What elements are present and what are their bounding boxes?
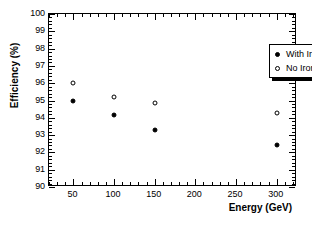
x-tick-major-top: [195, 14, 196, 20]
y-tick-minor: [49, 107, 52, 108]
y-tick-minor-right: [292, 173, 295, 174]
y-tick-major: [49, 83, 55, 84]
y-tick-label: 100: [30, 8, 45, 18]
y-tick-major-right: [289, 152, 295, 153]
y-tick-label: 90: [35, 181, 45, 191]
y-tick-major: [49, 135, 55, 136]
x-tick-label: 300: [268, 189, 283, 199]
y-axis-tick-labels: 90919293949596979899100: [20, 13, 45, 186]
legend-label-with-iron: With Iron: [286, 50, 312, 59]
y-tick-minor: [49, 97, 52, 98]
x-tick-minor-top: [138, 14, 139, 17]
x-tick-minor: [244, 182, 245, 185]
plot-frame: With Iron No Iron: [48, 13, 296, 186]
x-tick-major-top: [114, 14, 115, 20]
y-tick-major-right: [289, 83, 295, 84]
y-tick-minor: [49, 42, 52, 43]
y-tick-label: 95: [35, 95, 45, 105]
y-tick-minor-right: [292, 163, 295, 164]
x-tick-minor-top: [65, 14, 66, 17]
x-tick-minor-top: [179, 14, 180, 17]
y-tick-minor: [49, 166, 52, 167]
x-tick-minor: [187, 182, 188, 185]
y-tick-minor-right: [292, 24, 295, 25]
x-axis-title: Energy (GeV): [48, 202, 296, 213]
y-tick-minor-right: [292, 104, 295, 105]
x-tick-minor-top: [98, 14, 99, 17]
x-tick-major: [73, 179, 74, 185]
x-tick-label: 200: [187, 189, 202, 199]
x-tick-major-top: [155, 14, 156, 20]
y-tick-minor: [49, 69, 52, 70]
x-tick-minor-top: [293, 14, 294, 17]
y-tick-minor-right: [292, 142, 295, 143]
y-tick-minor-right: [292, 87, 295, 88]
y-tick-minor-right: [292, 177, 295, 178]
open-circle-icon: [275, 66, 280, 71]
y-tick-minor: [49, 125, 52, 126]
data-point-no-iron: [71, 81, 76, 86]
y-tick-minor: [49, 111, 52, 112]
y-tick-minor: [49, 114, 52, 115]
x-tick-minor-top: [106, 14, 107, 17]
y-tick-major-right: [289, 101, 295, 102]
y-tick-minor: [49, 173, 52, 174]
x-tick-major-top: [277, 14, 278, 20]
y-tick-major: [49, 31, 55, 32]
y-tick-minor: [49, 104, 52, 105]
y-tick-minor: [49, 87, 52, 88]
y-tick-minor: [49, 24, 52, 25]
x-tick-minor-top: [163, 14, 164, 17]
y-tick-minor-right: [292, 159, 295, 160]
x-tick-minor-top: [228, 14, 229, 17]
data-point-with-iron: [71, 98, 76, 103]
x-tick-label: 50: [67, 189, 77, 199]
x-tick-major: [236, 179, 237, 185]
legend-entry-with-iron: With Iron: [270, 47, 312, 61]
y-tick-minor-right: [292, 97, 295, 98]
x-tick-minor-top: [147, 14, 148, 17]
x-tick-minor: [203, 182, 204, 185]
x-tick-minor: [49, 182, 50, 185]
data-point-with-iron: [112, 113, 117, 118]
y-axis-title: Efficiency (%): [9, 26, 20, 126]
y-tick-minor: [49, 142, 52, 143]
x-tick-minor: [212, 182, 213, 185]
x-tick-minor: [106, 182, 107, 185]
y-tick-minor-right: [292, 180, 295, 181]
x-tick-minor-top: [90, 14, 91, 17]
y-tick-minor-right: [292, 125, 295, 126]
y-tick-major: [49, 170, 55, 171]
x-tick-major: [155, 179, 156, 185]
x-tick-minor-top: [171, 14, 172, 17]
legend-label-no-iron: No Iron: [286, 64, 312, 73]
y-tick-minor-right: [292, 111, 295, 112]
y-tick-minor: [49, 59, 52, 60]
y-tick-minor-right: [292, 145, 295, 146]
y-tick-major: [49, 118, 55, 119]
x-tick-minor-top: [269, 14, 270, 17]
y-tick-minor-right: [292, 156, 295, 157]
x-tick-minor: [122, 182, 123, 185]
x-tick-major: [277, 179, 278, 185]
y-tick-minor: [49, 128, 52, 129]
x-tick-minor: [171, 182, 172, 185]
x-tick-minor: [82, 182, 83, 185]
y-tick-label: 94: [35, 112, 45, 122]
x-tick-minor: [90, 182, 91, 185]
x-tick-minor: [65, 182, 66, 185]
x-tick-major: [195, 179, 196, 185]
y-tick-minor: [49, 56, 52, 57]
x-tick-minor: [57, 182, 58, 185]
x-tick-major: [114, 179, 115, 185]
y-tick-minor: [49, 62, 52, 63]
x-tick-minor: [147, 182, 148, 185]
data-point-no-iron: [274, 110, 279, 115]
x-tick-label: 100: [106, 189, 121, 199]
x-tick-minor-top: [244, 14, 245, 17]
y-tick-major-right: [289, 170, 295, 171]
x-tick-label: 250: [228, 189, 243, 199]
y-tick-minor: [49, 94, 52, 95]
y-tick-minor: [49, 17, 52, 18]
x-tick-minor-top: [49, 14, 50, 17]
